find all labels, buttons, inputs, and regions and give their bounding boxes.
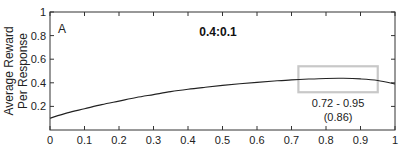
x-tick-label: 0.7 [284, 134, 299, 146]
y-label-line: Average Reward [2, 26, 16, 115]
x-tick-label: 0.8 [318, 134, 333, 146]
x-tick-label: 0.3 [146, 134, 161, 146]
x-tick-label: 0.1 [77, 134, 92, 146]
y-tick-label: 0.2 [31, 100, 46, 112]
y-tick-label: 1 [40, 6, 46, 18]
chart: Average RewardPer Response 00.10.20.30.4… [0, 0, 402, 148]
x-tick-label: 0.9 [353, 134, 368, 146]
x-tick-label: 0.4 [180, 134, 195, 146]
chart-title: 0.4:0.1 [199, 25, 237, 39]
x-tick-label: 0.5 [215, 134, 230, 146]
x-tick-label: 0.6 [249, 134, 264, 146]
y-tick-label: 0.8 [31, 30, 46, 42]
panel-label: A [58, 22, 66, 36]
y-tick-label: 0.4 [31, 77, 46, 89]
annotation-line: (0.86) [324, 111, 353, 123]
annotation-line: 0.72 - 0.95 [312, 97, 365, 109]
x-tick-label: 1 [392, 134, 398, 146]
x-tick-label: 0.2 [111, 134, 126, 146]
optimal-range-annotation: 0.72 - 0.95(0.86) [312, 97, 365, 123]
y-axis-label: Average RewardPer Response [2, 26, 30, 115]
x-tick-label: 0 [47, 134, 53, 146]
y-tick-label: 0.6 [31, 53, 46, 65]
y-label-line: Per Response [16, 33, 30, 109]
